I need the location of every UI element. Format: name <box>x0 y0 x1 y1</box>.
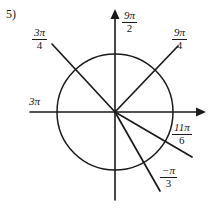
label-top-axis: 9π 2 <box>122 10 137 34</box>
x-axis-arrowhead <box>196 108 206 117</box>
ray-neg-pi-over-3 <box>115 112 160 191</box>
label-lower-right-numerator: 11π <box>172 122 192 135</box>
ray-9pi-over-4 <box>115 46 178 112</box>
label-lower-right-denominator: 6 <box>172 135 192 147</box>
label-upper-left-numerator: 3π <box>32 27 47 40</box>
label-left-axis-text: 3π <box>29 95 40 107</box>
y-axis-arrowhead <box>111 9 120 19</box>
label-left-axis: 3π <box>29 96 40 108</box>
label-upper-left: 3π 4 <box>32 27 47 51</box>
label-bottom-right: −π 3 <box>160 165 177 189</box>
label-top-axis-denominator: 2 <box>122 23 137 35</box>
label-bottom-right-denominator: 3 <box>160 178 177 190</box>
label-upper-right-denominator: 4 <box>172 40 187 52</box>
label-top-axis-numerator: 9π <box>122 10 137 23</box>
label-upper-right: 9π 4 <box>172 27 187 51</box>
label-bottom-right-numerator: −π <box>160 165 177 178</box>
label-lower-right: 11π 6 <box>172 122 192 146</box>
label-upper-left-denominator: 4 <box>32 40 47 52</box>
label-upper-right-numerator: 9π <box>172 27 187 40</box>
worksheet-figure-page: 5) 9π 2 9π 4 <box>0 0 214 208</box>
